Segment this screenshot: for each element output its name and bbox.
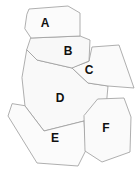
polygon-diagram: D E C F B A xyxy=(0,0,138,173)
region-label-f: F xyxy=(102,121,109,135)
region-polygon-a[interactable] xyxy=(25,6,80,38)
polygon-diagram-canvas: D E C F B A xyxy=(0,0,138,173)
region-group-f[interactable]: F xyxy=(84,98,131,162)
region-label-e: E xyxy=(51,131,59,145)
region-group-a[interactable]: A xyxy=(25,6,80,38)
region-label-a: A xyxy=(41,16,50,30)
region-label-c: C xyxy=(85,63,94,77)
region-label-b: B xyxy=(64,44,73,58)
region-label-d: D xyxy=(56,91,65,105)
